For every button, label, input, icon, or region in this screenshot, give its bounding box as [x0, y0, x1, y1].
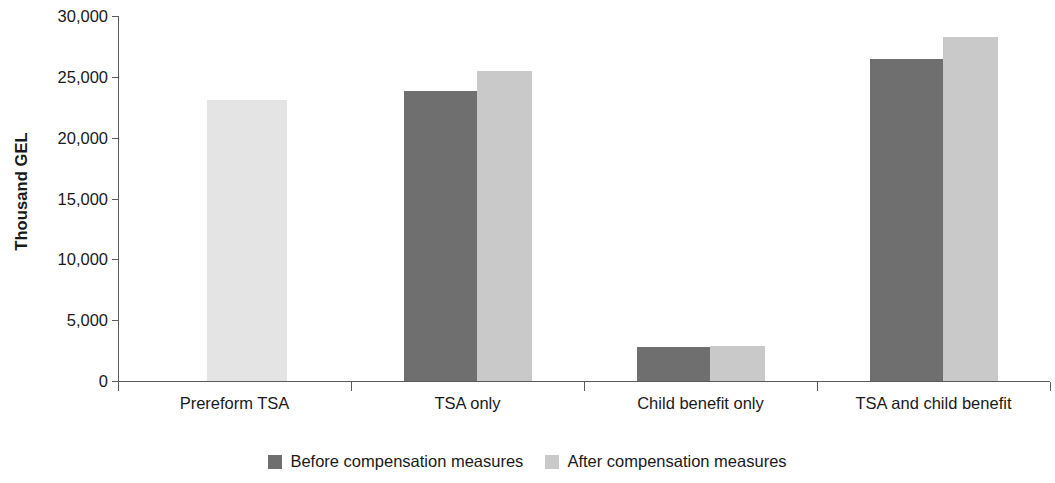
bar-before-compensation [637, 347, 710, 381]
legend-item-label: Before compensation measures [290, 452, 523, 471]
plot-area [118, 16, 1050, 381]
y-axis-tick-labels: 05,00010,00015,00020,00025,00030,000 [28, 0, 108, 483]
x-axis-category-label: Prereform TSA [118, 393, 351, 414]
legend-item[interactable]: Before compensation measures [268, 452, 523, 471]
chart-legend: Before compensation measuresAfter compen… [0, 452, 1055, 471]
x-axis-tick-mark [351, 382, 352, 391]
y-axis-tick-label: 10,000 [34, 250, 108, 269]
bar-after-compensation [943, 37, 998, 381]
y-axis-tick-label: 15,000 [34, 189, 108, 208]
bar-after-compensation [710, 346, 765, 381]
x-axis-tick-mark [118, 382, 119, 391]
y-axis-tick-label: 25,000 [34, 67, 108, 86]
bar-before-compensation [404, 91, 477, 381]
bar-after-compensation [207, 100, 287, 381]
x-axis-category-label: Child benefit only [584, 393, 817, 414]
x-axis-tick-mark [1050, 382, 1051, 391]
legend-item[interactable]: After compensation measures [545, 452, 786, 471]
y-axis-tick-label: 30,000 [34, 7, 108, 26]
bar-chart: Thousand GEL 05,00010,00015,00020,00025,… [0, 0, 1055, 483]
x-axis-tick-mark [584, 382, 585, 391]
legend-swatch-icon [268, 455, 282, 469]
bar-after-compensation [477, 71, 532, 381]
bar-before-compensation [870, 59, 943, 381]
legend-swatch-icon [545, 455, 559, 469]
x-axis-tick-mark [817, 382, 818, 391]
x-axis-category-label: TSA only [351, 393, 584, 414]
y-axis-tick-label: 20,000 [34, 128, 108, 147]
y-axis-tick-label: 0 [34, 372, 108, 391]
legend-item-label: After compensation measures [567, 452, 786, 471]
x-axis-category-label: TSA and child benefit [817, 393, 1050, 414]
y-axis-tick-label: 5,000 [34, 311, 108, 330]
